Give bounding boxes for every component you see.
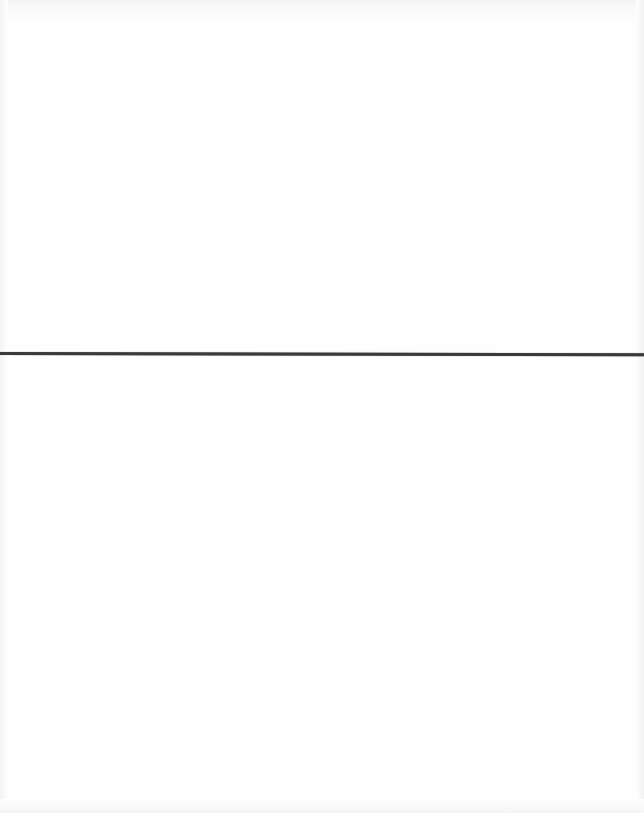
scan-left-edge <box>0 0 8 813</box>
document-page <box>0 0 644 813</box>
scan-bottom-edge <box>0 799 644 813</box>
scan-right-edge <box>636 0 644 813</box>
horizontal-divider <box>0 352 644 356</box>
scan-top-edge <box>0 0 644 22</box>
